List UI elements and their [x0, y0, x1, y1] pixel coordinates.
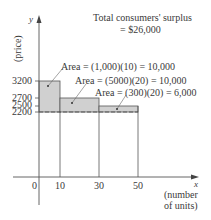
title-line-2: = $26,000 [120, 25, 161, 35]
area-label-1: Area = (1,000)(10) = 10,000 [61, 62, 175, 72]
area-label-2: Area = (5000)(20) = 10,000 [75, 76, 187, 86]
title-line-1: Total consumers' surplus [93, 13, 192, 23]
y-axis-label: (price) [13, 35, 23, 62]
x-tick-0: 0 [32, 181, 37, 191]
surplus-region-1 [39, 81, 60, 112]
x-tick-10: 10 [55, 181, 65, 191]
surplus-region-2 [60, 98, 99, 112]
x-axis-letter: x [194, 179, 198, 189]
x-tick-50: 50 [133, 181, 143, 191]
x-axis-label-line-2: of units) [164, 201, 198, 211]
y-axis-arrow-icon [37, 15, 42, 23]
area-label-3: Area = (300)(20) = 6,000 [95, 88, 197, 98]
y-axis-letter: y [29, 14, 33, 24]
x-tick-30: 30 [94, 181, 104, 191]
y-tick-3200: 3200 [12, 76, 32, 86]
x-axis-label-line-1: (number [164, 190, 198, 200]
y-tick-2200: 2200 [12, 107, 32, 117]
